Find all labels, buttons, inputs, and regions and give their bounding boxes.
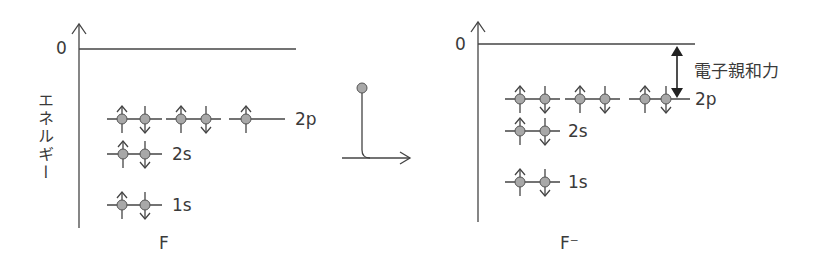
energy-diagram [0,0,829,270]
electron-addition-arrow-icon [342,83,410,164]
electron-affinity-arrow-icon [671,46,683,98]
right-1s-level [505,169,560,196]
left-2p-level [107,106,285,133]
right-2s-label: 2s [568,123,588,140]
right-1s-label: 1s [568,174,588,191]
right-2s-level [505,118,560,145]
energy-axis-label: エネルギー [36,92,52,182]
left-2s-label: 2s [172,146,192,163]
left-1s-level [107,192,162,219]
left-2p-label: 2p [295,111,317,128]
right-species-label: F⁻ [560,235,579,252]
left-zero-label: 0 [56,40,67,57]
right-2p-level [505,86,690,113]
right-zero-label: 0 [455,36,466,53]
right-2p-label: 2p [695,91,717,108]
left-2s-level [107,141,162,168]
left-species-label: F [159,235,169,252]
electron-affinity-label: 電子親和力 [694,63,779,80]
left-1s-label: 1s [172,197,192,214]
